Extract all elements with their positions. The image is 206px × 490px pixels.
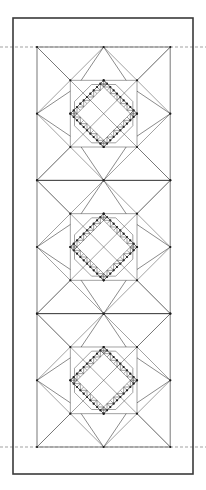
grid-node: [99, 409, 101, 411]
grid-node: [93, 136, 95, 138]
grid-node: [89, 359, 91, 361]
grid-node: [116, 133, 118, 135]
grid-node: [73, 243, 75, 245]
grid-node: [133, 383, 135, 385]
grid-node: [126, 123, 128, 125]
grid-node: [169, 246, 171, 248]
grid-node: [89, 226, 91, 228]
grid-node: [133, 249, 135, 251]
grid-node: [113, 356, 115, 358]
grid-node: [103, 413, 105, 415]
grid-node: [99, 276, 101, 278]
grid-node: [113, 89, 115, 91]
grid-node: [126, 389, 128, 391]
grid-node: [129, 239, 131, 241]
grid-node: [73, 109, 75, 111]
grid-node: [129, 106, 131, 108]
grid-node: [136, 213, 138, 215]
grid-node: [79, 103, 81, 105]
grid-node: [69, 79, 71, 81]
grid-node: [126, 256, 128, 258]
grid-node: [136, 113, 138, 115]
grid-node: [109, 406, 111, 408]
grid-node: [83, 393, 85, 395]
grid-node: [103, 446, 105, 448]
grid-node: [103, 346, 105, 348]
grid-node: [136, 279, 138, 281]
grid-node: [103, 279, 105, 281]
grid-node: [69, 213, 71, 215]
grid-node: [129, 373, 131, 375]
grid-node: [69, 379, 71, 381]
grid-node: [69, 146, 71, 148]
grid-node: [36, 379, 38, 381]
grid-node: [36, 46, 38, 48]
grid-node: [79, 369, 81, 371]
grid-node: [73, 376, 75, 378]
grid-node: [136, 379, 138, 381]
grid-node: [113, 223, 115, 225]
grid-node: [93, 403, 95, 405]
quilt-design-svg: [0, 0, 206, 490]
grid-node: [89, 93, 91, 95]
grid-node: [169, 379, 171, 381]
grid-node: [79, 236, 81, 238]
grid-node: [116, 266, 118, 268]
grid-node: [136, 413, 138, 415]
grid-node: [103, 46, 105, 48]
grid-node: [123, 366, 125, 368]
grid-node: [96, 219, 98, 221]
grid-node: [136, 79, 138, 81]
grid-node: [169, 446, 171, 448]
grid-node: [136, 146, 138, 148]
drawing-canvas: [0, 0, 206, 490]
grid-node: [69, 113, 71, 115]
grid-node: [123, 99, 125, 101]
grid-node: [123, 233, 125, 235]
grid-node: [76, 386, 78, 388]
grid-node: [103, 146, 105, 148]
grid-node: [133, 116, 135, 118]
grid-node: [36, 446, 38, 448]
grid-node: [103, 79, 105, 81]
grid-node: [96, 353, 98, 355]
grid-node: [83, 126, 85, 128]
grid-node: [169, 113, 171, 115]
grid-node: [109, 139, 111, 141]
grid-node: [109, 273, 111, 275]
grid-node: [96, 86, 98, 88]
grid-node: [69, 279, 71, 281]
grid-node: [76, 253, 78, 255]
grid-node: [116, 399, 118, 401]
grid-node: [99, 143, 101, 145]
grid-node: [69, 413, 71, 415]
grid-node: [83, 259, 85, 261]
page-background: [0, 0, 206, 490]
grid-node: [169, 46, 171, 48]
grid-node: [103, 213, 105, 215]
grid-node: [36, 246, 38, 248]
grid-node: [93, 269, 95, 271]
grid-node: [136, 346, 138, 348]
grid-node: [69, 246, 71, 248]
grid-node: [136, 246, 138, 248]
grid-node: [76, 119, 78, 121]
grid-node: [36, 113, 38, 115]
grid-node: [69, 346, 71, 348]
